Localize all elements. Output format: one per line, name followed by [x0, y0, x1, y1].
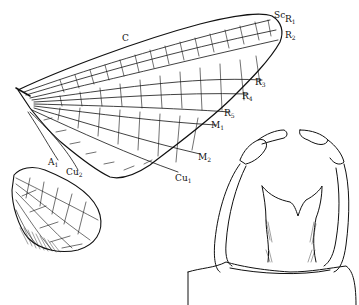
label-r5: R5: [224, 109, 235, 119]
label-r1: R1: [285, 15, 296, 25]
label-sc: Sc: [274, 11, 285, 20]
label-m1: M1: [211, 121, 224, 131]
label-cu2: Cu2: [66, 168, 83, 178]
genitalia: [188, 130, 356, 305]
diagram-figure: C Sc R1 R2 R3 R4 R5 M1 M2 Cu1 Cu2 A1: [0, 0, 359, 305]
label-m2: M2: [198, 153, 211, 163]
hindwing: [12, 168, 101, 252]
label-c: C: [122, 34, 129, 43]
label-r4: R4: [242, 92, 253, 102]
label-r2: R2: [285, 31, 296, 41]
illustration: [0, 0, 359, 305]
label-r3: R3: [255, 78, 266, 88]
label-cu1: Cu1: [175, 174, 192, 184]
label-a1: A1: [48, 158, 58, 168]
